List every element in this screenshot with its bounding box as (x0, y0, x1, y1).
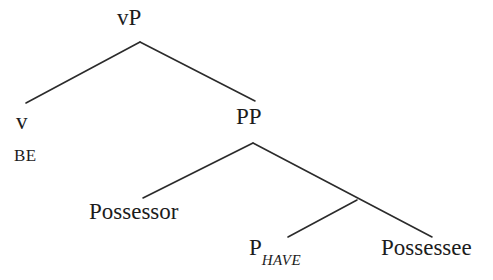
node-label-p-main: P (249, 235, 262, 260)
branch-vp-to-v (26, 42, 140, 103)
branch-pbar-to-p-have (288, 200, 357, 237)
branch-pp-to-possessee (253, 143, 432, 237)
node-label-p-have: PHAVE (249, 236, 301, 264)
node-label-possessor: Possessor (89, 200, 178, 223)
node-label-vp: vP (117, 6, 141, 29)
branch-vp-to-pp (140, 42, 255, 101)
node-label-pp: PP (236, 105, 262, 128)
syntax-tree-figure: vP v BE PP Possessor PHAVE Possessee (0, 0, 493, 280)
branch-pp-to-possessor (143, 143, 253, 198)
node-label-v: v (16, 110, 28, 133)
node-label-p-subscript: HAVE (262, 252, 301, 268)
node-label-possessee: Possessee (381, 236, 472, 259)
node-label-be: BE (14, 147, 37, 164)
